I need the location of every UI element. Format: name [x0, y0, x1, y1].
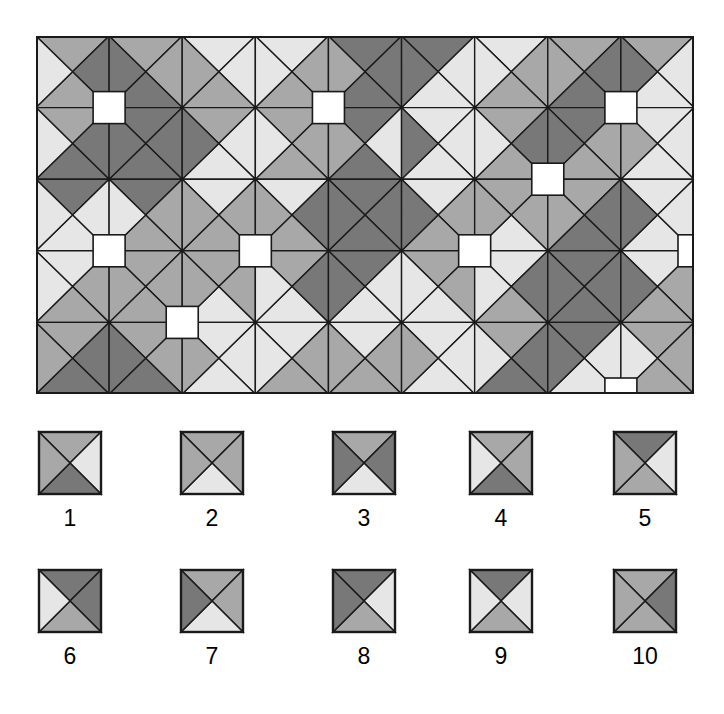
legend-item[interactable]: 9	[465, 568, 537, 669]
pattern-white-square	[605, 92, 637, 124]
legend-tile-swatch[interactable]	[612, 430, 678, 496]
pattern-white-square	[459, 235, 491, 267]
pattern-white-square	[93, 92, 125, 124]
legend-tile-label: 5	[609, 505, 681, 531]
pattern-tiles	[36, 36, 694, 394]
tiling-pattern-panel	[36, 36, 694, 394]
legend-tile-label: 6	[34, 643, 106, 669]
legend-row-1: 12345	[0, 430, 724, 540]
legend-tile-swatch[interactable]	[179, 430, 245, 496]
legend-tile-swatch[interactable]	[468, 430, 534, 496]
pattern-white-square	[605, 378, 637, 394]
legend-row-2: 678910	[0, 568, 724, 678]
legend-item[interactable]: 6	[34, 568, 106, 669]
legend-tile-label: 2	[176, 505, 248, 531]
pattern-white-square	[532, 163, 564, 195]
legend-item[interactable]: 2	[176, 430, 248, 531]
legend-tile-label: 9	[465, 643, 537, 669]
legend-item[interactable]: 10	[609, 568, 681, 669]
legend-tile-swatch[interactable]	[612, 568, 678, 634]
legend-tile-label: 1	[34, 505, 106, 531]
legend-tile-swatch[interactable]	[331, 430, 397, 496]
legend-tile-swatch[interactable]	[468, 568, 534, 634]
legend-tile-swatch[interactable]	[179, 568, 245, 634]
legend-tile-label: 7	[176, 643, 248, 669]
legend-item[interactable]: 5	[609, 430, 681, 531]
figure-root: 12345 678910	[0, 0, 724, 714]
legend-item[interactable]: 4	[465, 430, 537, 531]
legend-item[interactable]: 8	[328, 568, 400, 669]
legend-tile-swatch[interactable]	[37, 430, 103, 496]
legend-item[interactable]: 7	[176, 568, 248, 669]
legend-tile-label: 8	[328, 643, 400, 669]
legend-tile-swatch[interactable]	[37, 568, 103, 634]
pattern-white-square	[93, 235, 125, 267]
legend-item[interactable]: 1	[34, 430, 106, 531]
legend-tile-swatch[interactable]	[331, 568, 397, 634]
legend-tile-label: 10	[609, 643, 681, 669]
pattern-white-square	[239, 235, 271, 267]
pattern-white-square	[678, 235, 694, 267]
pattern-white-square	[312, 92, 344, 124]
legend-item[interactable]: 3	[328, 430, 400, 531]
legend-tile-label: 4	[465, 505, 537, 531]
legend-tile-label: 3	[328, 505, 400, 531]
pattern-white-square	[166, 306, 198, 338]
tiling-pattern-svg	[36, 36, 694, 394]
